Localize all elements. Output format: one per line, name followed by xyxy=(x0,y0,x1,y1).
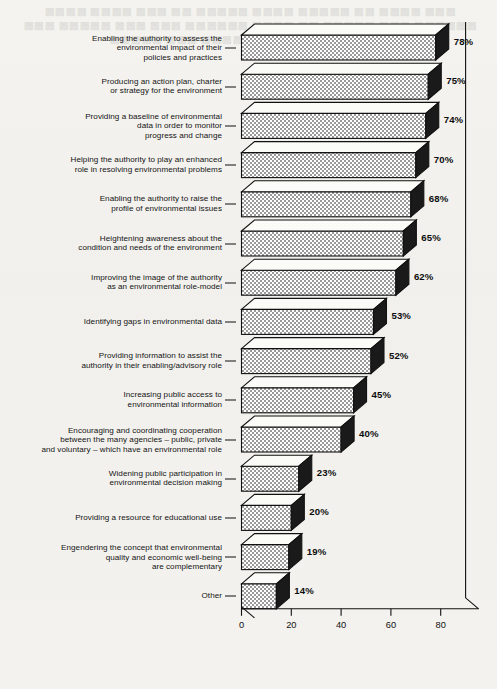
bar-value-label: 74% xyxy=(444,114,464,125)
x-tick-label: 20 xyxy=(286,620,296,630)
bar-value-label: 68% xyxy=(429,192,449,203)
bar-value-label: 75% xyxy=(446,75,466,86)
bar-value-label: 40% xyxy=(359,428,379,439)
bar-value-label: 62% xyxy=(414,271,434,282)
x-tick-label: 60 xyxy=(386,620,396,630)
bar-value-label: 65% xyxy=(421,232,441,243)
bar-value-label: 20% xyxy=(309,506,329,517)
bars-and-axes xyxy=(0,0,497,689)
bar-value-label: 45% xyxy=(372,388,392,399)
bar-value-label: 14% xyxy=(294,584,314,595)
x-tick-label: 80 xyxy=(436,620,446,630)
bar-value-label: 23% xyxy=(317,467,337,478)
x-tick-label: 40 xyxy=(336,620,346,630)
bar-value-label: 70% xyxy=(434,153,454,164)
horizontal-3d-bar-chart: Enabling the authority to assess the env… xyxy=(0,0,497,689)
bar-value-label: 78% xyxy=(454,36,474,47)
x-tick-label: 0 xyxy=(239,620,244,630)
bar-value-label: 53% xyxy=(391,310,411,321)
bar-value-label: 19% xyxy=(307,545,327,556)
bar-value-label: 52% xyxy=(389,349,409,360)
